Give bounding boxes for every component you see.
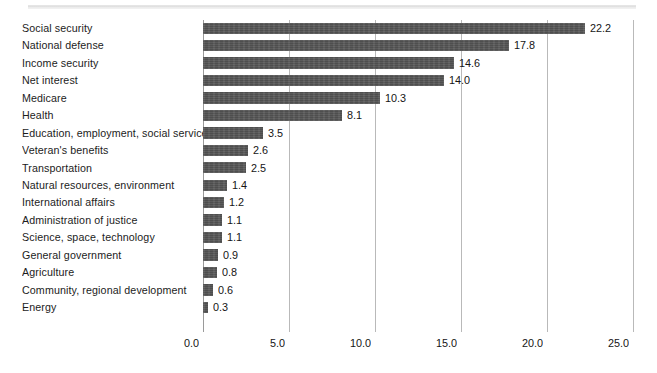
bar	[203, 232, 222, 243]
bar-row: General government0.9	[0, 247, 657, 264]
category-label: Agriculture	[22, 264, 74, 281]
bar-value-label: 2.5	[251, 160, 266, 177]
bar-row: Income security14.6	[0, 55, 657, 72]
x-tick-10.0: 10.0	[318, 337, 371, 349]
bar-row: Social security22.2	[0, 20, 657, 37]
bar	[203, 145, 248, 156]
bar-row: Agriculture0.8	[0, 264, 657, 281]
bar-value-label: 2.6	[253, 142, 268, 159]
category-label: Natural resources, environment	[22, 177, 174, 194]
bar	[203, 75, 444, 86]
x-tick-0.0: 0.0	[146, 337, 199, 349]
bar	[203, 23, 585, 34]
category-label: Education, employment, social services	[22, 125, 213, 142]
bar	[203, 249, 218, 260]
bar-row: Transportation2.5	[0, 160, 657, 177]
bar-value-label: 1.1	[227, 229, 242, 246]
bar-row: International affairs1.2	[0, 194, 657, 211]
bar-row: Net interest14.0	[0, 72, 657, 89]
bar	[203, 197, 224, 208]
x-tick-5.0: 5.0	[232, 337, 285, 349]
page-top-rule-secondary	[28, 8, 636, 9]
bar-row: Health8.1	[0, 107, 657, 124]
bar	[203, 267, 217, 278]
category-label: Transportation	[22, 160, 92, 177]
bar-row: Administration of justice1.1	[0, 212, 657, 229]
bar-value-label: 0.8	[222, 264, 237, 281]
bar	[203, 127, 263, 138]
bar	[203, 284, 213, 295]
bar	[203, 302, 208, 313]
bar-row: Science, space, technology1.1	[0, 229, 657, 246]
bar-value-label: 1.1	[227, 212, 242, 229]
bar-value-label: 0.3	[213, 299, 228, 316]
bar	[203, 180, 227, 191]
bar-row: Natural resources, environment1.4	[0, 177, 657, 194]
category-label: Net interest	[22, 72, 78, 89]
bar-value-label: 0.9	[223, 247, 238, 264]
category-label: Energy	[22, 299, 56, 316]
category-label: National defense	[22, 37, 104, 54]
category-label: Social security	[22, 20, 92, 37]
category-label: Administration of justice	[22, 212, 138, 229]
category-label: Veteran's benefits	[22, 142, 109, 159]
bar-rows: Social security22.2National defense17.8I…	[0, 20, 657, 332]
bar	[203, 110, 342, 121]
bar-chart: Social security22.2National defense17.8I…	[0, 0, 657, 373]
x-tick-25.0: 25.0	[576, 337, 629, 349]
bar	[203, 40, 509, 51]
bar-value-label: 17.8	[514, 37, 535, 54]
bar-value-label: 22.2	[590, 20, 611, 37]
category-label: Income security	[22, 55, 98, 72]
bar	[203, 162, 246, 173]
bar	[203, 92, 380, 103]
bar-row: Community, regional development0.6	[0, 282, 657, 299]
bar-value-label: 3.5	[268, 125, 283, 142]
x-axis-tick-labels: 0.05.010.015.020.025.0	[0, 332, 657, 356]
bar-value-label: 1.4	[232, 177, 247, 194]
category-label: Science, space, technology	[22, 229, 155, 246]
x-tick-20.0: 20.0	[490, 337, 543, 349]
bar-value-label: 14.6	[459, 55, 480, 72]
bar-value-label: 8.1	[347, 107, 362, 124]
category-label: Health	[22, 107, 54, 124]
category-label: International affairs	[22, 194, 115, 211]
category-label: General government	[22, 247, 121, 264]
category-label: Community, regional development	[22, 282, 187, 299]
bar-value-label: 0.6	[218, 282, 233, 299]
bar-row: Education, employment, social services3.…	[0, 125, 657, 142]
bar-row: National defense17.8	[0, 37, 657, 54]
bar-value-label: 14.0	[449, 72, 470, 89]
bar	[203, 214, 222, 225]
category-label: Medicare	[22, 90, 67, 107]
bar-row: Energy0.3	[0, 299, 657, 316]
bar	[203, 57, 454, 68]
bar-row: Veteran's benefits2.6	[0, 142, 657, 159]
bar-row: Medicare10.3	[0, 90, 657, 107]
x-tick-15.0: 15.0	[404, 337, 457, 349]
bar-value-label: 10.3	[385, 90, 406, 107]
bar-value-label: 1.2	[229, 194, 244, 211]
